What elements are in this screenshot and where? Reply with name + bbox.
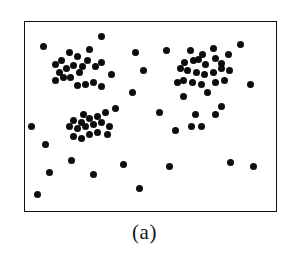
data-point xyxy=(58,57,65,64)
data-point xyxy=(74,82,81,89)
data-point xyxy=(98,33,105,40)
data-point xyxy=(210,45,217,52)
data-point xyxy=(212,111,219,118)
data-point xyxy=(70,133,77,140)
data-point xyxy=(195,56,202,63)
data-point xyxy=(86,46,93,53)
data-point xyxy=(98,119,105,126)
data-point xyxy=(68,157,75,164)
data-point xyxy=(227,159,234,166)
data-point xyxy=(204,89,211,96)
data-point xyxy=(70,62,77,69)
data-point xyxy=(66,49,73,56)
data-point xyxy=(82,123,89,130)
data-point xyxy=(218,65,225,72)
data-point xyxy=(247,81,254,88)
data-point xyxy=(86,131,93,138)
data-point xyxy=(66,123,73,130)
data-point xyxy=(108,71,115,78)
data-point xyxy=(132,49,139,56)
data-point xyxy=(156,109,163,116)
data-point xyxy=(180,93,187,100)
scatter-plot-frame xyxy=(24,21,277,212)
data-point xyxy=(106,123,113,130)
data-point xyxy=(60,74,67,81)
data-point xyxy=(98,59,105,66)
data-point xyxy=(82,81,89,88)
scatter-points-layer xyxy=(25,22,276,211)
data-point xyxy=(52,61,59,68)
figure-caption: (a) xyxy=(0,219,289,245)
data-point xyxy=(250,163,257,170)
data-point xyxy=(136,185,143,192)
data-point xyxy=(192,111,199,118)
data-point xyxy=(90,171,97,178)
data-point xyxy=(189,79,196,86)
data-point xyxy=(40,43,47,50)
data-point xyxy=(225,51,232,58)
data-point xyxy=(74,125,81,132)
data-point xyxy=(42,141,49,148)
data-point xyxy=(78,135,85,142)
data-point xyxy=(188,123,195,130)
data-point xyxy=(221,77,228,84)
data-point xyxy=(63,65,70,72)
data-point xyxy=(212,79,219,86)
data-point xyxy=(174,79,181,86)
data-point xyxy=(177,65,184,72)
data-point xyxy=(129,89,136,96)
data-point xyxy=(218,103,225,110)
data-point xyxy=(112,105,119,112)
data-point xyxy=(140,67,147,74)
data-point xyxy=(76,69,83,76)
data-point xyxy=(84,57,91,64)
data-point xyxy=(198,81,205,88)
data-point xyxy=(187,47,194,54)
data-point xyxy=(90,121,97,128)
data-point xyxy=(102,109,109,116)
data-point xyxy=(180,77,187,84)
data-point xyxy=(52,77,59,84)
data-point xyxy=(166,163,173,170)
data-point xyxy=(201,71,208,78)
data-point xyxy=(172,127,179,134)
data-point xyxy=(90,79,97,86)
data-point xyxy=(226,67,233,74)
data-point xyxy=(34,191,41,198)
data-point xyxy=(210,69,217,76)
data-point xyxy=(74,53,81,60)
figure-panel: (a) xyxy=(0,0,289,277)
data-point xyxy=(202,61,209,68)
data-point xyxy=(198,123,205,130)
data-point xyxy=(163,47,170,54)
data-point xyxy=(104,131,111,138)
data-point xyxy=(237,41,244,48)
data-point xyxy=(28,123,35,130)
data-point xyxy=(184,67,191,74)
data-point xyxy=(120,161,127,168)
data-point xyxy=(67,74,74,81)
data-point xyxy=(212,55,219,62)
data-point xyxy=(94,129,101,136)
data-point xyxy=(46,169,53,176)
data-point xyxy=(98,83,105,90)
data-point xyxy=(193,69,200,76)
